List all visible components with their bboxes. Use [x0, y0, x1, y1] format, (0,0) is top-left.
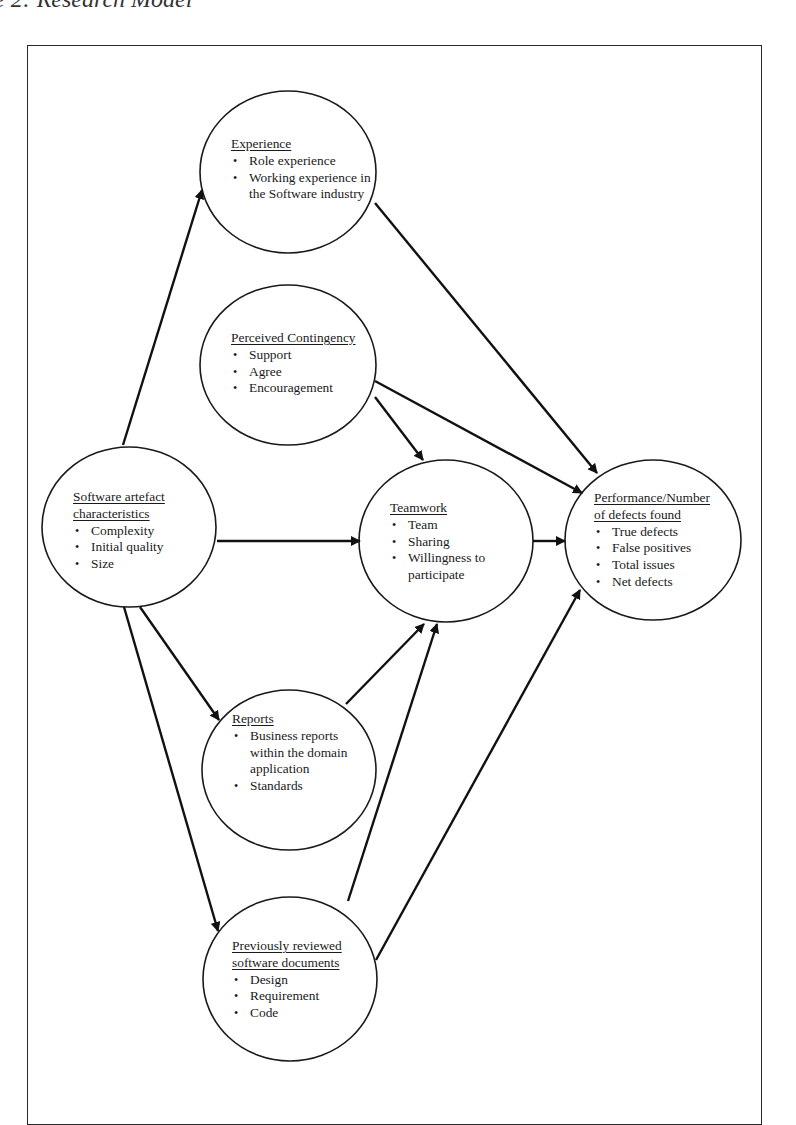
list-item: Design [232, 972, 357, 989]
node-teamwork: Teamwork Team Sharing Willingness to par… [390, 500, 520, 584]
list-item: Complexity [73, 523, 193, 540]
node-items: Support Agree Encouragement [231, 347, 381, 397]
node-title: Experience [231, 136, 381, 153]
arrows [123, 190, 597, 960]
node-perceived-contingency: Perceived Contingency Support Agree Enco… [231, 330, 381, 397]
node-title: Reports [232, 711, 367, 728]
node-title: Previously reviewed software documents [232, 938, 357, 972]
node-title: Performance/Number of defects found [594, 490, 724, 524]
list-item: Initial quality [73, 539, 193, 556]
list-item: Role experience [231, 153, 381, 170]
list-item: True defects [594, 524, 724, 541]
arrow-software-artefact-to-experience [123, 190, 202, 445]
node-items: Role experience Working experience in th… [231, 153, 381, 203]
list-item: Standards [232, 778, 367, 795]
list-item: Team [390, 517, 520, 534]
list-item: Agree [231, 364, 381, 381]
list-item: Working experience in the Software indus… [231, 170, 374, 204]
node-title: Teamwork [390, 500, 520, 517]
arrow-reports-to-teamwork [346, 624, 424, 704]
list-item: False positives [594, 540, 724, 557]
arrow-software-artefact-to-previously-reviewed [124, 607, 218, 931]
node-items: Design Requirement Code [232, 972, 357, 1022]
list-item: Sharing [390, 534, 520, 551]
node-performance: Performance/Number of defects found True… [594, 490, 724, 591]
list-item: Size [73, 556, 193, 573]
list-item: Net defects [594, 574, 724, 591]
list-item: Support [231, 347, 381, 364]
arrow-previously-reviewed-to-performance [376, 590, 580, 960]
list-item: Willingness to participate [390, 550, 508, 584]
node-software-artefact: Software artefact characteristics Comple… [73, 489, 193, 573]
list-item: Business reports within the domain appli… [232, 728, 350, 778]
node-reports: Reports Business reports within the doma… [232, 711, 367, 795]
node-items: Team Sharing Willingness to participate [390, 517, 520, 584]
list-item: Code [232, 1005, 357, 1022]
node-items: True defects False positives Total issue… [594, 524, 724, 591]
list-item: Encouragement [231, 380, 381, 397]
list-item: Total issues [594, 557, 724, 574]
node-experience: Experience Role experience Working exper… [231, 136, 381, 203]
node-items: Business reports within the domain appli… [232, 728, 367, 795]
node-title: Software artefact characteristics [73, 489, 193, 523]
node-title: Perceived Contingency [231, 330, 381, 347]
arrow-experience-to-performance [375, 203, 597, 473]
node-items: Complexity Initial quality Size [73, 523, 193, 573]
node-previously-reviewed: Previously reviewed software documents D… [232, 938, 357, 1022]
arrow-perceived-contingency-to-teamwork [375, 397, 423, 460]
list-item: Requirement [232, 988, 357, 1005]
